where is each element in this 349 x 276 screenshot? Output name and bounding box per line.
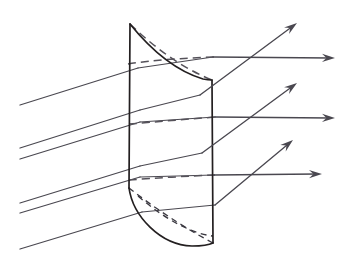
refracted-ray-4	[215, 114, 335, 122]
refracted-ray-1	[200, 23, 297, 95]
internal-segment-3	[140, 117, 215, 122]
hidden-bottom-back-rim	[129, 188, 213, 243]
figure-root: Refraction of parallel light rays throug…	[0, 0, 349, 276]
incident-ray-5	[20, 177, 140, 213]
hidden-bottom-inner-curve	[138, 196, 213, 236]
refracted-ray-1-arrowhead	[284, 23, 297, 34]
internal-segment-5	[140, 175, 214, 177]
incident-ray-4	[20, 166, 140, 203]
bottom-surface-front-curve	[129, 188, 213, 246]
right-silhouette-edge	[212, 80, 213, 243]
incident-ray-3	[20, 122, 140, 159]
incident-ray-1	[20, 68, 138, 105]
left-silhouette-edge	[129, 24, 130, 188]
refracted-ray-3-shaft	[202, 86, 293, 153]
refracted-ray-3-arrowhead	[284, 83, 297, 94]
refracted-ray-6-shaft	[214, 174, 317, 175]
internal-segment-group	[138, 57, 215, 212]
refracted-ray-5	[215, 140, 293, 205]
refracted-ray-2	[213, 54, 335, 62]
internal-segment-4	[140, 153, 202, 166]
refracted-ray-6	[214, 170, 322, 178]
refracted-ray-group	[200, 23, 335, 205]
incident-ray-2	[20, 110, 140, 148]
incident-ray-group	[20, 68, 142, 249]
hidden-top-back-rim	[130, 24, 212, 80]
top-surface-front-curve	[130, 24, 212, 80]
refracted-ray-2-shaft	[213, 57, 330, 58]
hidden-edge-group	[128, 24, 216, 243]
internal-segment-2	[140, 95, 200, 110]
refracted-ray-4-shaft	[215, 117, 330, 118]
refracted-ray-1-shaft	[200, 26, 293, 95]
ray-diagram-canvas	[0, 0, 349, 276]
internal-segment-6	[142, 205, 215, 212]
incident-ray-6	[20, 212, 142, 249]
